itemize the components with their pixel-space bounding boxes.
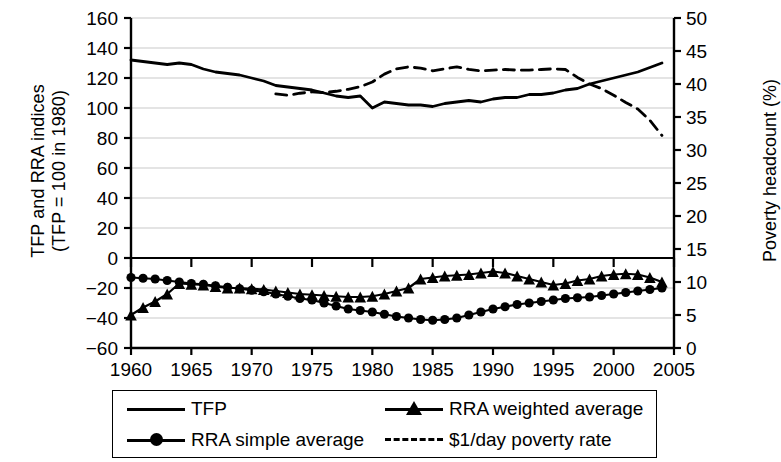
y-axis-right-tick: 45 [686, 42, 707, 61]
y-axis-left-tick: 60 [0, 159, 126, 178]
legend-swatch-rra-simple [127, 430, 185, 450]
y-axis-right-tick: 5 [686, 306, 697, 325]
y-axis-left-tick: 80 [0, 129, 126, 148]
y-axis-left-tick: 100 [0, 99, 126, 118]
y-axis-right-tick: 40 [686, 75, 707, 94]
chart-legend: TFP RRA weighted average RRA simple aver… [112, 390, 657, 458]
y-axis-left-tick: 160 [0, 9, 126, 28]
y-axis-left-tick: −60 [0, 339, 126, 358]
y-axis-right-tick: 50 [686, 9, 707, 28]
x-axis-tick: 2005 [639, 360, 709, 379]
y-axis-right-tick: 30 [686, 141, 707, 160]
legend-item-rra-simple[interactable]: RRA simple average [127, 425, 364, 455]
legend-swatch-tfp [127, 399, 185, 419]
y-axis-right-tick: 10 [686, 273, 707, 292]
legend-item-tfp[interactable]: TFP [127, 394, 227, 424]
legend-item-poverty-rate[interactable]: $1/day poverty rate [385, 425, 612, 455]
y-axis-right-tick: 25 [686, 174, 707, 193]
y-axis-right-tick: 15 [686, 240, 707, 259]
legend-label-rra-simple: RRA simple average [191, 429, 364, 451]
legend-label-poverty-rate: $1/day poverty rate [449, 429, 612, 451]
y-axis-left-tick: −20 [0, 279, 126, 298]
legend-swatch-poverty-rate [385, 430, 443, 450]
y-axis-left-tick: 20 [0, 219, 126, 238]
legend-swatch-rra-weighted [385, 399, 443, 419]
y-axis-right-tick: 20 [686, 207, 707, 226]
y-axis-left-tick: −40 [0, 309, 126, 328]
y-axis-left-tick: 0 [0, 249, 126, 268]
y-axis-left-tick: 140 [0, 39, 126, 58]
y-axis-right-tick: 0 [686, 339, 697, 358]
y-axis-right-tick: 35 [686, 108, 707, 127]
legend-item-rra-weighted[interactable]: RRA weighted average [385, 394, 643, 424]
y-axis-left-tick: 120 [0, 69, 126, 88]
legend-label-tfp: TFP [191, 398, 227, 420]
legend-label-rra-weighted: RRA weighted average [449, 398, 643, 420]
y-axis-left-tick: 40 [0, 189, 126, 208]
